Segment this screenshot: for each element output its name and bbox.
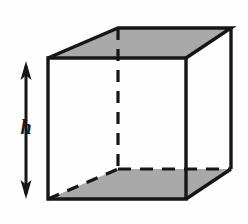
cube-diagram	[0, 0, 248, 224]
height-label: h	[12, 117, 40, 137]
cube-bottom-face-shading	[48, 169, 231, 199]
figure-container: h	[0, 0, 248, 224]
cube-top-face-shading	[48, 28, 231, 58]
